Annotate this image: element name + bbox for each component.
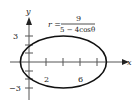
y-axis-label: y <box>25 7 31 16</box>
x-axis-label: x <box>127 58 132 67</box>
y-tick-label-neg3: −3 <box>9 84 21 93</box>
x-tick-label-2: 2 <box>44 75 49 84</box>
polar-ellipse-figure: x y 2 6 3 −3 r = 9 5 − 4cosθ <box>0 0 138 111</box>
y-axis-arrow-icon <box>26 17 32 25</box>
equation-denominator: 5 − 4cosθ <box>60 26 95 34</box>
y-tick-label-3: 3 <box>13 32 18 41</box>
equation-numerator: 9 <box>76 14 81 23</box>
x-tick-label-6: 6 <box>78 75 83 84</box>
